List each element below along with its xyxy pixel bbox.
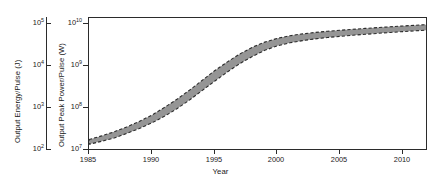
- year-tick-mark: [402, 150, 403, 154]
- figure-container: 100 Hz pulse rate 3 to 12 GHz frequency …: [0, 0, 441, 182]
- year-tick-label: 1990: [133, 155, 169, 164]
- energy-axis-spine: [46, 17, 47, 150]
- plot-area: [88, 17, 427, 150]
- growth-band: [89, 18, 427, 150]
- energy-axis-title: Output Energy/Pulse (J): [13, 60, 22, 143]
- year-tick-mark: [339, 150, 340, 154]
- year-tick-label: 2005: [321, 155, 357, 164]
- year-tick-mark: [151, 150, 152, 154]
- growth-band-fill: [89, 25, 427, 145]
- year-tick-label: 2000: [258, 155, 294, 164]
- energy-tick-mark: [46, 149, 51, 150]
- energy-tick-label: 103: [18, 103, 44, 111]
- energy-tick-label: 104: [18, 61, 44, 69]
- year-tick-label: 1985: [70, 155, 106, 164]
- energy-tick-mark: [46, 107, 51, 108]
- energy-tick-label: 105: [18, 19, 44, 27]
- energy-tick-mark: [46, 23, 51, 24]
- year-tick-mark: [88, 150, 89, 154]
- year-tick-mark: [214, 150, 215, 154]
- power-tick-label: 107: [52, 145, 82, 153]
- power-axis-title: Output Peak Power/Pulse (W): [57, 43, 66, 147]
- year-axis-title: Year: [0, 167, 441, 176]
- energy-tick-mark: [46, 65, 51, 66]
- year-tick-mark: [276, 150, 277, 154]
- power-tick-label: 108: [52, 103, 82, 111]
- power-tick-label: 1010: [52, 19, 82, 27]
- year-tick-label: 2010: [384, 155, 420, 164]
- power-tick-label: 109: [52, 61, 82, 69]
- year-tick-label: 1995: [196, 155, 232, 164]
- energy-tick-label: 102: [18, 145, 44, 153]
